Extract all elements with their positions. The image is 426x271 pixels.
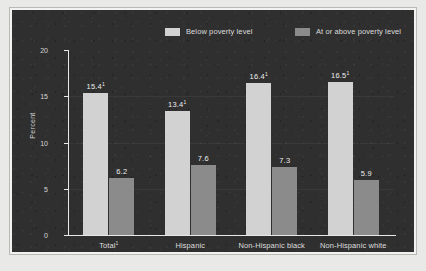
- legend-swatch-at-or-above-poverty-level: [295, 28, 310, 36]
- y-axis-tick-label: 0: [28, 232, 48, 239]
- bar-below-poverty: [328, 82, 353, 235]
- bar-at-or-above-poverty: [191, 165, 216, 235]
- bar-value-label: 7.6: [198, 155, 209, 163]
- chart-legend: Below poverty level At or above poverty …: [12, 27, 414, 41]
- x-axis-line: [68, 235, 396, 236]
- bar-below-poverty: [246, 83, 271, 235]
- legend-label-at-or-above-poverty-level: At or above poverty level: [316, 27, 401, 36]
- bar-value-label: 16.41: [250, 73, 268, 81]
- bar-value-label: 13.41: [168, 101, 186, 109]
- x-axis-category-label: Total1: [99, 241, 118, 250]
- y-axis-title: Percent: [29, 96, 36, 156]
- bar-below-poverty: [165, 111, 190, 235]
- y-axis-tick-label: 5: [28, 185, 48, 192]
- bar-at-or-above-poverty: [354, 180, 379, 235]
- bar-at-or-above-poverty: [272, 167, 297, 235]
- legend-label-below-poverty-level: Below poverty level: [186, 27, 253, 36]
- bar-below-poverty: [83, 93, 108, 235]
- x-axis-category-label: Hispanic: [175, 241, 205, 250]
- x-axis-category-label: Non-Hispanic white: [320, 241, 386, 250]
- chart-plot-panel: Below poverty level At or above poverty …: [12, 10, 414, 252]
- bar-at-or-above-poverty: [109, 178, 134, 235]
- legend-swatch-below-poverty-level: [165, 28, 180, 36]
- chart-bars-area: 15.416.213.417.616.417.316.515.9: [68, 50, 394, 235]
- bar-value-label: 5.9: [361, 170, 372, 178]
- bar-value-label: 6.2: [116, 168, 127, 176]
- y-axis-tick-label: 20: [28, 47, 48, 54]
- legend-item-below-poverty-level: Below poverty level: [165, 27, 253, 36]
- y-axis-tick-label: 15: [28, 93, 48, 100]
- x-axis-category-label: Non-Hispanic black: [239, 241, 305, 250]
- y-axis-tick-label: 10: [28, 139, 48, 146]
- bar-value-label: 15.41: [87, 83, 105, 91]
- chart-figure: Below poverty level At or above poverty …: [0, 0, 426, 271]
- bar-value-label: 16.51: [331, 72, 349, 80]
- legend-item-at-or-above-poverty-level: At or above poverty level: [295, 27, 401, 36]
- bar-value-label: 7.3: [279, 157, 290, 165]
